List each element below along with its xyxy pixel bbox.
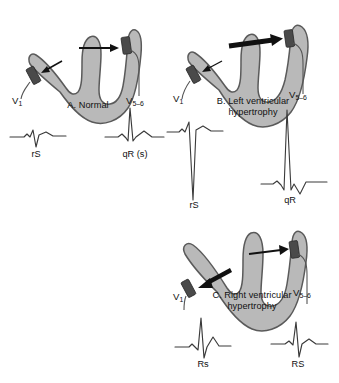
panel-caption-a: A. Normal [38, 100, 138, 111]
wave-label-qr-b: qR [276, 195, 304, 205]
ventricular-hypertrophy-figure: V1 V5–6 A. Normal rS qR (s) [0, 0, 339, 383]
panel-caption-b: B. Left ventricular hypertrophy [193, 96, 313, 119]
lead-label-v1-a: V1 [12, 95, 22, 106]
wave-label-rs-b: rS [180, 200, 208, 210]
panel-normal: V1 V5–6 A. Normal rS qR (s) [0, 4, 172, 174]
panel-left-ventricular-hypertrophy: V1 V5–6 B. Left ventricular hypertrophy … [163, 4, 339, 209]
waveform-trace-rs [10, 130, 66, 147]
wave-label-rs-c: Rs [189, 359, 217, 369]
panel-caption-c: C. Right ventricular hypertrophy [189, 290, 315, 313]
waveform-trace-rs-deep [167, 122, 223, 200]
heart-outline-rvh [184, 231, 307, 331]
panel-right-ventricular-hypertrophy: V1 V5–6 C. Right ventricular hypertrophy… [163, 218, 339, 383]
wave-label-rs2-c: RS [284, 359, 312, 369]
wave-label-rs-a: rS [22, 149, 50, 159]
waveform-trace-rs-tall [175, 318, 231, 358]
lead-label-v1-c: V1 [173, 291, 183, 302]
lead-label-v1-b: V1 [173, 93, 183, 104]
waveform-trace-rs-deep-c [271, 322, 328, 357]
wave-label-qrs-a: qR (s) [113, 149, 157, 159]
